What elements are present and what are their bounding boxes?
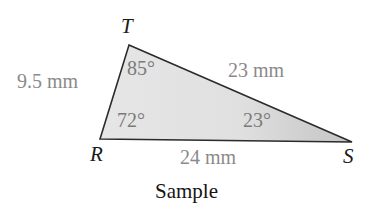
triangle-figure: T R S 9.5 mm 23 mm 24 mm 85° 72° 23° Sam…	[0, 0, 380, 220]
vertex-label-t: T	[121, 16, 133, 37]
figure-caption: Sample	[155, 181, 218, 202]
angle-label-t: 85°	[127, 58, 155, 78]
side-length-label-ts: 23 mm	[228, 60, 284, 80]
side-length-label-rt: 9.5 mm	[17, 71, 78, 91]
side-length-label-rs: 24 mm	[180, 147, 236, 167]
vertex-label-r: R	[90, 144, 103, 165]
angle-label-r: 72°	[117, 110, 145, 130]
angle-label-s: 23°	[243, 110, 271, 130]
vertex-label-s: S	[343, 146, 354, 167]
